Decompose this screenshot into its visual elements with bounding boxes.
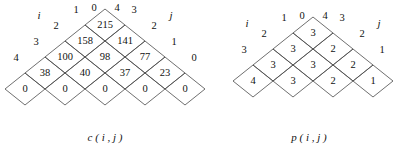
left-edge-label-0: 1 — [281, 13, 286, 24]
right-edge-label-2: 1 — [379, 45, 384, 56]
left-edge-label-0: 1 — [73, 5, 78, 16]
lattice-cell-value: 77 — [140, 52, 151, 63]
lattice-cell-value: 3 — [310, 60, 315, 71]
lattice-cell-value: 0 — [142, 84, 147, 95]
lattice-cell-value: 40 — [80, 68, 91, 79]
lattice-cell-value: 23 — [160, 68, 171, 79]
axis-label-i: i — [245, 18, 248, 29]
lattice-cell-value: 2 — [330, 76, 335, 87]
axis-label-j: j — [169, 10, 172, 21]
right-edge-label-1: 2 — [151, 21, 156, 32]
figure-c-lattice: 215158141100987738403723000000412343210i… — [0, 0, 199, 159]
left-edge-label-1: 2 — [53, 21, 58, 32]
lattice-cell-value: 4 — [250, 76, 255, 87]
lattice-cell-value: 38 — [40, 68, 51, 79]
axis-label-j: j — [377, 18, 380, 29]
lattice-cell-value: 37 — [120, 68, 131, 79]
lattice-cell-value: 3 — [290, 44, 295, 55]
apex-left-label: 0 — [91, 3, 96, 14]
figure-caption: c ( i , j ) — [88, 132, 123, 143]
axis-label-i: i — [37, 10, 40, 21]
figure-p-lattice: 332332432104123321ijp ( i , j ) — [199, 0, 398, 159]
lattice-cell-value: 3 — [290, 76, 295, 87]
right-edge-label-3: 0 — [191, 53, 196, 64]
lattice-cell-value: 0 — [102, 84, 107, 95]
lattice-cell-value: 3 — [310, 28, 315, 39]
lattice-cell-value: 0 — [62, 84, 67, 95]
apex-left-label: 0 — [299, 11, 304, 22]
apex-right-label: 4 — [322, 11, 327, 22]
lattice-cell-value: 2 — [330, 44, 335, 55]
lattice-cell-value: 0 — [182, 84, 187, 95]
lattice-cell-value: 2 — [350, 60, 355, 71]
right-edge-label-2: 1 — [171, 37, 176, 48]
right-edge-label-0: 3 — [131, 5, 136, 16]
left-edge-label-1: 2 — [261, 29, 266, 40]
left-edge-label-3: 4 — [13, 53, 18, 64]
lattice-cell-value: 1 — [370, 76, 375, 87]
lattice-cell-value: 0 — [22, 84, 27, 95]
lattice-cell-value: 100 — [57, 52, 73, 63]
apex-right-label: 4 — [114, 3, 119, 14]
left-edge-label-2: 3 — [241, 45, 246, 56]
lattice-cell-value: 3 — [270, 60, 275, 71]
right-edge-label-1: 2 — [359, 29, 364, 40]
right-edge-label-0: 3 — [339, 13, 344, 24]
lattice-cell-value: 98 — [100, 52, 111, 63]
lattice-cell-value: 158 — [77, 36, 93, 47]
lattice-cell-value: 215 — [97, 20, 113, 31]
left-edge-label-2: 3 — [33, 37, 38, 48]
lattice-cell-value: 141 — [117, 36, 133, 47]
figure-caption: p ( i , j ) — [291, 132, 326, 143]
